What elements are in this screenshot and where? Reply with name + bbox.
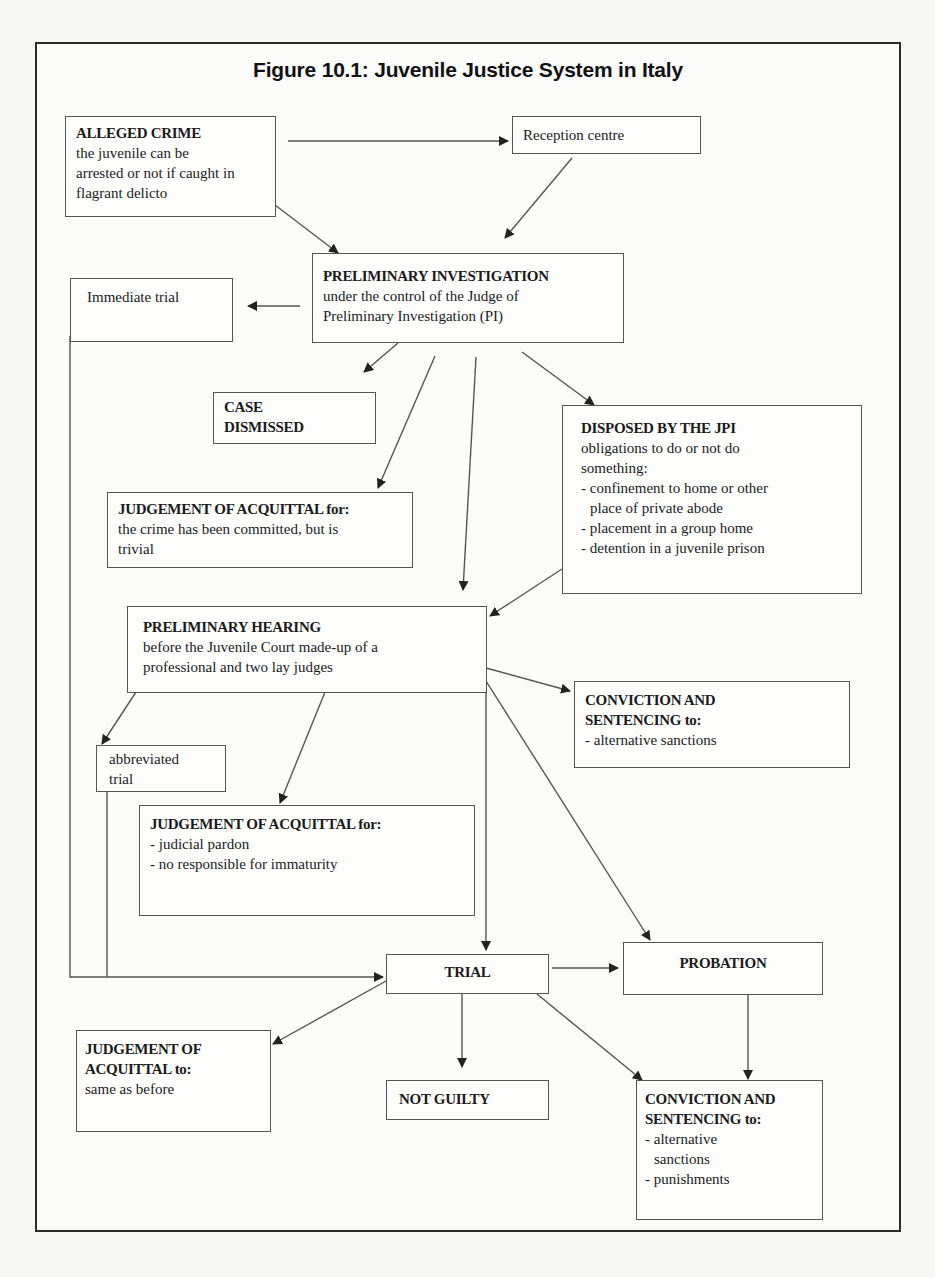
node-text: same as before [85,1079,262,1099]
edge-pi-to-hearing [463,357,476,590]
node-text: flagrant delicto [76,183,265,203]
node-immediate-trial: Immediate trial [70,278,233,342]
node-heading: CASE [224,397,365,417]
node-probation: PROBATION [623,942,823,995]
node-text: - punishments [645,1169,814,1189]
node-alleged-crime: ALLEGED CRIME the juvenile can be arrest… [65,116,276,217]
node-preliminary-investigation: PRELIMINARY INVESTIGATION under the cont… [312,253,624,343]
node-abbreviated-trial: abbreviated trial [96,745,226,792]
node-case-dismissed: CASE DISMISSED [213,392,376,444]
node-text: before the Juvenile Court made-up of a [143,637,471,657]
node-text: sanctions [645,1149,814,1169]
edge-reception-to-pi [505,158,572,238]
node-heading: PRELIMINARY INVESTIGATION [323,266,613,286]
node-text: - confinement to home or other [581,478,843,498]
node-preliminary-hearing: PRELIMINARY HEARING before the Juvenile … [127,606,487,693]
edge-pi-to-disposed [522,352,594,405]
edge-pi-to-dismissed [364,343,398,372]
edge-disposed-to-hearing [490,569,562,616]
node-heading: SENTENCING to: [585,710,839,730]
node-text: trial [109,769,213,789]
node-text: the juvenile can be [76,143,265,163]
node-heading: CONVICTION AND [645,1089,814,1109]
edge-hearing-to-abbreviated [102,692,136,744]
node-trial: TRIAL [386,954,549,994]
node-acquittal-same: JUDGEMENT OF ACQUITTAL to: same as befor… [76,1030,271,1132]
edge-alleged-to-pi [275,205,338,253]
node-text: something: [581,458,843,478]
node-heading: TRIAL [397,962,538,982]
node-heading: JUDGEMENT OF ACQUITTAL for: [150,814,464,834]
node-text: trivial [118,539,402,559]
node-disposed-by-jpi: DISPOSED BY THE JPI obligations to do or… [562,405,862,594]
node-heading: DISPOSED BY THE JPI [581,418,843,438]
node-heading: PROBATION [634,953,812,973]
node-heading: JUDGEMENT OF [85,1039,262,1059]
node-heading: ALLEGED CRIME [76,123,265,143]
node-acquittal-trivial: JUDGEMENT OF ACQUITTAL for: the crime ha… [107,492,413,568]
node-text: abbreviated [109,749,213,769]
node-text: under the control of the Judge of [323,286,613,306]
node-text: arrested or not if caught in [76,163,265,183]
node-text: - alternative [645,1129,814,1149]
node-text: Reception centre [523,125,690,145]
node-heading: ACQUITTAL to: [85,1059,262,1079]
edge-hearing-to-conviction [486,668,570,691]
node-heading: PRELIMINARY HEARING [143,617,471,637]
node-conviction-alternative: CONVICTION AND SENTENCING to: - alternat… [574,681,850,768]
node-text: - detention in a juvenile prison [581,538,843,558]
node-heading: JUDGEMENT OF ACQUITTAL for: [118,499,402,519]
node-text: - placement in a group home [581,518,843,538]
node-heading: CONVICTION AND [585,690,839,710]
node-heading: DISMISSED [224,417,365,437]
node-heading: NOT GUILTY [399,1089,536,1109]
node-acquittal-pardon: JUDGEMENT OF ACQUITTAL for: - judicial p… [139,805,475,916]
node-text: Immediate trial [87,287,216,307]
node-text: the crime has been committed, but is [118,519,402,539]
edge-trial-to-acquittal-same [273,981,386,1044]
edge-hearing-to-pardon [280,692,325,803]
node-text: professional and two lay judges [143,657,471,677]
node-reception-centre: Reception centre [512,116,701,154]
node-heading: SENTENCING to: [645,1109,814,1129]
node-text: - alternative sanctions [585,730,839,750]
node-text: obligations to do or not do [581,438,843,458]
node-conviction-final: CONVICTION AND SENTENCING to: - alternat… [636,1080,823,1220]
node-not-guilty: NOT GUILTY [386,1080,549,1120]
node-text: Preliminary Investigation (PI) [323,306,613,326]
edge-pi-to-acquittal-trivial [378,356,435,488]
node-text: - no responsible for immaturity [150,854,464,874]
node-text: - judicial pardon [150,834,464,854]
node-text: place of private abode [581,498,843,518]
edge-trial-to-conviction-final [537,994,642,1080]
